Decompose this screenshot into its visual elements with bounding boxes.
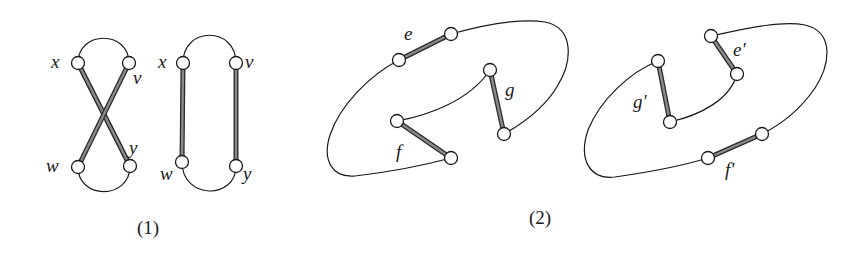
node-w	[72, 161, 85, 174]
node-f1-prime	[702, 152, 715, 165]
graph-diagram: x v w y x v w y (1)	[0, 0, 865, 257]
thick-edge-x-w-fill	[182, 63, 183, 162]
node-x	[72, 57, 85, 70]
node-x	[177, 57, 190, 70]
label-e-prime: e'	[733, 39, 746, 60]
figure1-left-graph: x v w y	[46, 38, 142, 191]
top-arc-x-v	[78, 38, 129, 63]
label-e: e	[404, 23, 412, 44]
label-g: g	[505, 79, 515, 100]
figure1-right-graph: x v w y	[157, 35, 254, 191]
caption-2: (2)	[529, 207, 551, 229]
thick-edge-g-fill	[490, 70, 504, 134]
label-y: y	[127, 137, 138, 158]
figure2-right-graph: e' g' f'	[584, 24, 826, 180]
label-x: x	[157, 51, 167, 72]
node-g2-prime	[664, 116, 677, 129]
label-f-prime: f'	[725, 159, 735, 180]
label-y: y	[241, 163, 252, 184]
label-v: v	[245, 51, 254, 72]
thick-edge-f-prime-fill	[708, 134, 762, 158]
node-y	[230, 160, 243, 173]
node-y	[124, 160, 137, 173]
node-e2-prime	[731, 68, 744, 81]
outer-curve-g-to-f	[584, 61, 708, 177]
outer-curve-e-to-f	[711, 24, 827, 134]
node-f2-prime	[756, 128, 769, 141]
outer-curve-e-to-g	[451, 21, 568, 134]
label-f: f	[396, 141, 404, 162]
figure2-left-graph: e g f	[327, 21, 568, 176]
bottom-arc-w-y	[182, 162, 236, 191]
label-w: w	[160, 163, 173, 184]
node-g1-prime	[652, 55, 665, 68]
node-f2	[445, 152, 458, 165]
node-e1	[393, 54, 406, 67]
outer-curve-e-to-f	[327, 60, 451, 176]
inner-curve-f-to-g	[397, 70, 490, 121]
node-e1-prime	[705, 30, 718, 43]
node-v	[230, 57, 243, 70]
inner-curve-g-to-e	[670, 74, 737, 122]
bottom-arc-w-y	[78, 166, 130, 192]
label-g-prime: g'	[633, 91, 648, 112]
node-w	[176, 156, 189, 169]
node-g2	[498, 128, 511, 141]
thick-edge-g-prime-fill	[658, 61, 670, 122]
thick-edge-f-fill	[397, 121, 451, 158]
label-x: x	[50, 51, 60, 72]
top-arc-x-v	[183, 35, 236, 63]
label-w: w	[46, 155, 59, 176]
label-v: v	[133, 67, 142, 88]
caption-1: (1)	[137, 217, 159, 239]
node-g1	[484, 64, 497, 77]
node-e2	[445, 28, 458, 41]
node-f1	[391, 115, 404, 128]
